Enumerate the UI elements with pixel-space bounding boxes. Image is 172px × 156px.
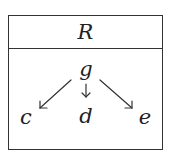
node-c: c <box>20 107 32 128</box>
node-g: g <box>79 59 92 80</box>
node-d: d <box>79 106 92 127</box>
arrow-g-to-d <box>82 84 90 97</box>
arrow-g-to-e <box>100 80 132 108</box>
arrow-g-to-c <box>40 80 71 108</box>
node-e: e <box>139 107 151 128</box>
